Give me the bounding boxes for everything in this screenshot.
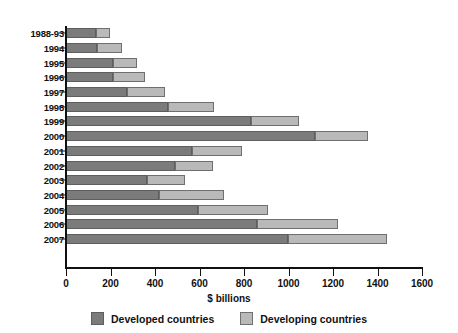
bar-segment-developed bbox=[66, 116, 251, 126]
stacked-bar bbox=[66, 175, 185, 185]
bar-segment-developing bbox=[113, 58, 137, 68]
legend-item-developing: Developing countries bbox=[240, 312, 367, 325]
stacked-bar bbox=[66, 161, 213, 171]
legend-swatch-developing-icon bbox=[240, 312, 253, 325]
chart-row: 1995 bbox=[0, 55, 458, 70]
stacked-bar bbox=[66, 131, 368, 141]
x-axis-tick bbox=[244, 269, 245, 276]
legend-swatch-developed-icon bbox=[91, 312, 104, 325]
x-axis-tick bbox=[422, 269, 423, 276]
bar-segment-developed bbox=[66, 190, 159, 200]
x-axis-ticks bbox=[0, 269, 458, 277]
legend-label-developing: Developing countries bbox=[260, 313, 367, 325]
chart-row: 1994 bbox=[0, 41, 458, 56]
bar-segment-developed bbox=[66, 72, 113, 82]
bar-segment-developing bbox=[315, 131, 368, 141]
bar-segment-developed bbox=[66, 102, 168, 112]
chart-row: 2001 bbox=[0, 144, 458, 159]
x-axis-tick bbox=[111, 269, 112, 276]
stacked-bar bbox=[66, 146, 242, 156]
x-axis-tick bbox=[66, 269, 67, 276]
stacked-bar bbox=[66, 190, 224, 200]
bar-segment-developing bbox=[198, 205, 268, 215]
bar-segment-developed bbox=[66, 58, 113, 68]
bar-segment-developed bbox=[66, 205, 198, 215]
bar-segment-developing bbox=[96, 28, 110, 38]
bar-segment-developing bbox=[257, 219, 338, 229]
stacked-bar bbox=[66, 205, 268, 215]
stacked-bar-chart: 1988-93199419951996199719981999200020012… bbox=[0, 0, 458, 333]
bar-segment-developed bbox=[66, 219, 257, 229]
chart-row: 1988-93 bbox=[0, 26, 458, 41]
chart-legend: Developed countries Developing countries bbox=[0, 312, 458, 325]
x-axis-tick-label: 200 bbox=[102, 278, 119, 289]
bar-segment-developing bbox=[113, 72, 146, 82]
legend-item-developed: Developed countries bbox=[91, 312, 214, 325]
x-axis-tick bbox=[289, 269, 290, 276]
bar-segment-developing bbox=[288, 234, 387, 244]
chart-row: 2002 bbox=[0, 158, 458, 173]
x-axis-tick bbox=[333, 269, 334, 276]
bar-segment-developing bbox=[175, 161, 213, 171]
legend-label-developed: Developed countries bbox=[111, 313, 214, 325]
bar-segment-developed bbox=[66, 234, 288, 244]
bar-segment-developing bbox=[159, 190, 224, 200]
stacked-bar bbox=[66, 234, 387, 244]
stacked-bar bbox=[66, 72, 145, 82]
x-axis-tick-label: 600 bbox=[191, 278, 208, 289]
x-axis-tick-label: 1200 bbox=[322, 278, 344, 289]
chart-row: 1999 bbox=[0, 114, 458, 129]
chart-row: 2004 bbox=[0, 188, 458, 203]
x-axis-tick bbox=[200, 269, 201, 276]
stacked-bar bbox=[66, 58, 137, 68]
chart-row: 2007 bbox=[0, 232, 458, 247]
stacked-bar bbox=[66, 116, 299, 126]
x-axis-tick-label: 1600 bbox=[411, 278, 433, 289]
chart-row: 1998 bbox=[0, 99, 458, 114]
x-axis-tick-label: 1000 bbox=[277, 278, 299, 289]
bar-segment-developing bbox=[147, 175, 185, 185]
bar-segment-developed bbox=[66, 87, 127, 97]
stacked-bar bbox=[66, 102, 214, 112]
stacked-bar bbox=[66, 219, 338, 229]
chart-row: 1997 bbox=[0, 85, 458, 100]
chart-row: 2006 bbox=[0, 217, 458, 232]
x-axis-tick bbox=[378, 269, 379, 276]
x-axis-tick-labels: 02004006008001000120014001600 bbox=[0, 278, 458, 292]
plot-area: 1988-93199419951996199719981999200020012… bbox=[0, 26, 458, 266]
stacked-bar bbox=[66, 28, 110, 38]
bar-segment-developing bbox=[127, 87, 166, 97]
x-axis-tick-label: 0 bbox=[63, 278, 69, 289]
x-axis-tick bbox=[155, 269, 156, 276]
x-axis-tick-label: 400 bbox=[147, 278, 164, 289]
bar-segment-developing bbox=[97, 43, 122, 53]
chart-row: 2003 bbox=[0, 173, 458, 188]
x-axis-tick-label: 1400 bbox=[366, 278, 388, 289]
x-axis-title: $ billions bbox=[0, 293, 458, 304]
bar-segment-developed bbox=[66, 28, 96, 38]
bar-segment-developed bbox=[66, 175, 147, 185]
chart-row: 2005 bbox=[0, 202, 458, 217]
bar-segment-developed bbox=[66, 161, 175, 171]
chart-row: 1996 bbox=[0, 70, 458, 85]
chart-row: 2000 bbox=[0, 129, 458, 144]
bar-segment-developed bbox=[66, 131, 315, 141]
bar-segment-developing bbox=[251, 116, 299, 126]
stacked-bar bbox=[66, 87, 165, 97]
bar-segment-developing bbox=[168, 102, 214, 112]
stacked-bar bbox=[66, 43, 122, 53]
y-axis-line bbox=[65, 26, 67, 268]
x-axis-tick-label: 800 bbox=[236, 278, 253, 289]
bar-segment-developed bbox=[66, 43, 97, 53]
bar-segment-developed bbox=[66, 146, 192, 156]
bar-segment-developing bbox=[192, 146, 242, 156]
